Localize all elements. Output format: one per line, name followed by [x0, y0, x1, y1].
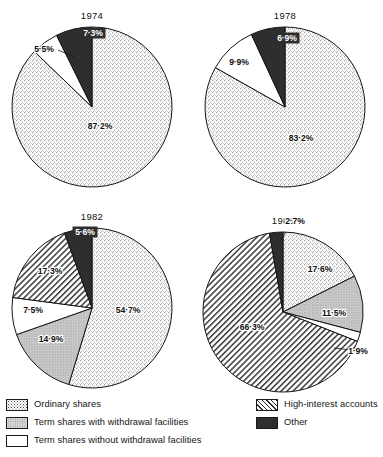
slice-label: 6·9%	[277, 33, 297, 43]
legend-item-term-shares-without-withdrawal[interactable]: Term shares without withdrawal facilitie…	[6, 432, 201, 449]
slice-label: 87·2%	[88, 121, 113, 131]
pie-chart-figure: 197487·2%87·2%5·5%5·5%7·3%197883·2%83·2%…	[0, 0, 383, 457]
pie-chart-1974: 197487·2%87·2%5·5%5·5%7·3%	[12, 10, 172, 187]
slice-label: 7·3%	[83, 28, 103, 38]
slice-label: 1·9%	[348, 346, 368, 356]
pie-chart-1986: 198617·6%17·6%11·5%11·5%1·9%1·9%66·3%66·…	[203, 215, 368, 392]
pie-chart-1978: 197883·2%83·2%9·9%9·9%6·9%	[205, 10, 365, 187]
slice-label: 54·7%	[116, 305, 141, 315]
legend-label: Other	[284, 417, 308, 428]
legend-item-high-interest-accounts[interactable]: High-interest accounts	[256, 396, 378, 413]
slice-label: 66·3%	[240, 322, 265, 332]
slice-label: 83·2%	[289, 133, 314, 143]
pie-title: 1978	[274, 10, 296, 21]
slice-label: 5·5%	[34, 44, 54, 54]
pie-chart-1982: 198254·7%54·7%14·9%14·9%7·5%7·5%17·3%17·…	[12, 211, 172, 388]
slice-label: 14·9%	[39, 334, 64, 344]
slice-label: 17·3%	[38, 266, 63, 276]
pie-title: 1982	[81, 211, 103, 222]
slice-label: 2·7%	[285, 216, 305, 226]
slice-label: 9·9%	[229, 57, 249, 67]
legend-item-other[interactable]: Other	[256, 414, 378, 431]
legend-item-ordinary-shares[interactable]: Ordinary shares	[6, 396, 201, 413]
legend-label: Ordinary shares	[34, 399, 101, 410]
pie-charts-area: 197487·2%87·2%5·5%5·5%7·3%197883·2%83·2%…	[0, 0, 383, 457]
legend-swatch-greydot-icon	[6, 417, 28, 429]
slice-label: 17·6%	[308, 264, 333, 274]
legend-label: Term shares without withdrawal facilitie…	[34, 435, 201, 446]
legend-swatch-stipple-icon	[6, 399, 28, 411]
legend-label: High-interest accounts	[284, 399, 378, 410]
slice-label: 11·5%	[322, 308, 346, 318]
legend-swatch-hatch-icon	[256, 399, 278, 411]
legend-column-right: High-interest accounts Other	[256, 396, 378, 432]
slice-label: 5·6%	[75, 227, 95, 237]
legend-swatch-black-icon	[256, 417, 278, 429]
legend-item-term-shares-with-withdrawal[interactable]: Term shares with withdrawal facilities	[6, 414, 201, 431]
legend-swatch-white-icon	[6, 435, 28, 447]
pies-svg: 197487·2%87·2%5·5%5·5%7·3%197883·2%83·2%…	[0, 0, 383, 400]
chart-legend: Ordinary shares Term shares with withdra…	[0, 396, 383, 457]
pie-title: 1974	[81, 10, 103, 21]
legend-column-left: Ordinary shares Term shares with withdra…	[6, 396, 201, 450]
slice-label: 7·5%	[23, 305, 43, 315]
legend-label: Term shares with withdrawal facilities	[34, 417, 188, 428]
